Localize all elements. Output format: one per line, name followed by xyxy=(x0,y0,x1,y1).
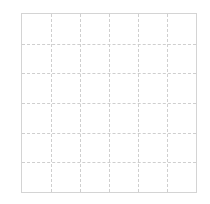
horizontal-gridline xyxy=(22,162,196,163)
horizontal-gridline xyxy=(22,133,196,134)
chart-canvas xyxy=(0,0,210,204)
horizontal-gridline xyxy=(22,44,196,45)
horizontal-gridline xyxy=(22,73,196,74)
plot-area xyxy=(21,13,197,193)
horizontal-gridline xyxy=(22,103,196,104)
